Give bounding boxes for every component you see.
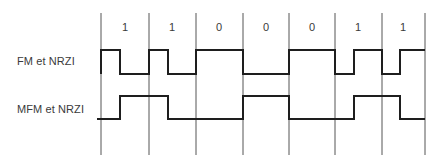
bit-label: 1	[348, 21, 368, 33]
bit-label: 0	[302, 21, 322, 33]
bit-label: 0	[256, 21, 276, 33]
bit-label: 1	[115, 21, 135, 33]
mfm-nrzi-waveform	[97, 96, 425, 119]
fm-nrzi-label: FM et NRZI	[17, 55, 75, 67]
bit-label: 1	[162, 21, 182, 33]
bit-label: 1	[393, 21, 413, 33]
bit-label: 0	[209, 21, 229, 33]
cell-boundary-lines	[101, 13, 425, 155]
mfm-nrzi-label: MFM et NRZI	[17, 103, 84, 115]
fm-nrzi-waveform	[101, 50, 425, 74]
